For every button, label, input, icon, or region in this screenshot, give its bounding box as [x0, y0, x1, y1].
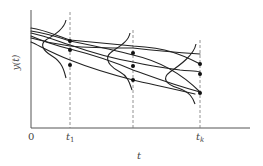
y-axis-label: y(t) — [12, 55, 21, 71]
t1-label: t1 — [66, 132, 75, 144]
tk-sub: k — [200, 136, 204, 144]
tk-label: tk — [196, 132, 204, 144]
t1-sub: 1 — [70, 136, 74, 144]
stochastic-process-diagram — [0, 0, 263, 166]
density-curves — [43, 20, 196, 104]
origin-label: 0 — [28, 132, 34, 142]
x-axis-label: t — [137, 151, 141, 161]
sample-paths — [31, 28, 200, 94]
